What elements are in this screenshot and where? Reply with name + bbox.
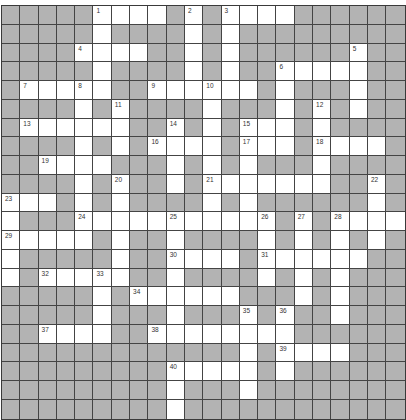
crossword-cell[interactable]: 29: [2, 231, 20, 250]
crossword-cell[interactable]: 40: [167, 362, 185, 381]
crossword-cell[interactable]: 21: [203, 175, 221, 194]
crossword-cell[interactable]: [167, 306, 185, 325]
crossword-cell[interactable]: 28: [331, 212, 349, 231]
crossword-cell[interactable]: 7: [20, 81, 38, 100]
crossword-cell[interactable]: [57, 81, 75, 100]
crossword-cell[interactable]: [331, 137, 349, 156]
crossword-cell[interactable]: [350, 137, 368, 156]
crossword-cell[interactable]: [222, 250, 240, 269]
crossword-cell[interactable]: [258, 6, 276, 25]
crossword-cell[interactable]: 37: [39, 325, 57, 344]
crossword-cell[interactable]: 23: [2, 194, 20, 213]
crossword-cell[interactable]: [240, 344, 258, 363]
crossword-cell[interactable]: [39, 119, 57, 138]
crossword-cell[interactable]: [148, 287, 166, 306]
crossword-cell[interactable]: [295, 250, 313, 269]
crossword-cell[interactable]: [112, 137, 130, 156]
crossword-cell[interactable]: [148, 212, 166, 231]
crossword-cell[interactable]: [2, 212, 20, 231]
crossword-cell[interactable]: [222, 62, 240, 81]
crossword-cell[interactable]: [148, 6, 166, 25]
crossword-cell[interactable]: [75, 100, 93, 119]
crossword-cell[interactable]: [313, 344, 331, 363]
crossword-cell[interactable]: [185, 325, 203, 344]
crossword-cell[interactable]: [167, 81, 185, 100]
crossword-cell[interactable]: 33: [93, 269, 111, 288]
crossword-cell[interactable]: [203, 100, 221, 119]
crossword-cell[interactable]: [93, 25, 111, 44]
crossword-cell[interactable]: [240, 175, 258, 194]
crossword-cell[interactable]: [313, 119, 331, 138]
crossword-cell[interactable]: 32: [39, 269, 57, 288]
crossword-cell[interactable]: 36: [276, 306, 294, 325]
crossword-cell[interactable]: [185, 287, 203, 306]
crossword-cell[interactable]: [350, 212, 368, 231]
crossword-cell[interactable]: [93, 306, 111, 325]
crossword-cell[interactable]: [57, 325, 75, 344]
crossword-cell[interactable]: [57, 119, 75, 138]
crossword-cell[interactable]: [185, 62, 203, 81]
crossword-cell[interactable]: [276, 325, 294, 344]
crossword-cell[interactable]: [240, 381, 258, 400]
crossword-cell[interactable]: [258, 119, 276, 138]
crossword-cell[interactable]: [313, 175, 331, 194]
crossword-cell[interactable]: [295, 287, 313, 306]
crossword-cell[interactable]: [368, 137, 386, 156]
crossword-cell[interactable]: [295, 269, 313, 288]
crossword-cell[interactable]: [331, 344, 349, 363]
crossword-cell[interactable]: [258, 137, 276, 156]
crossword-cell[interactable]: [93, 212, 111, 231]
crossword-cell[interactable]: [240, 81, 258, 100]
crossword-cell[interactable]: [276, 100, 294, 119]
crossword-cell[interactable]: [185, 44, 203, 63]
crossword-cell[interactable]: [75, 194, 93, 213]
crossword-cell[interactable]: [75, 231, 93, 250]
crossword-cell[interactable]: [39, 81, 57, 100]
crossword-cell[interactable]: [295, 344, 313, 363]
crossword-cell[interactable]: [331, 250, 349, 269]
crossword-cell[interactable]: [2, 269, 20, 288]
crossword-cell[interactable]: [331, 306, 349, 325]
crossword-cell[interactable]: [185, 362, 203, 381]
crossword-cell[interactable]: [276, 137, 294, 156]
crossword-cell[interactable]: 26: [258, 212, 276, 231]
crossword-cell[interactable]: [93, 119, 111, 138]
crossword-cell[interactable]: 5: [350, 44, 368, 63]
crossword-cell[interactable]: 39: [276, 344, 294, 363]
crossword-cell[interactable]: [276, 250, 294, 269]
crossword-cell[interactable]: 38: [148, 325, 166, 344]
crossword-cell[interactable]: [93, 287, 111, 306]
crossword-cell[interactable]: [112, 231, 130, 250]
crossword-cell[interactable]: 13: [20, 119, 38, 138]
crossword-cell[interactable]: [240, 156, 258, 175]
crossword-cell[interactable]: [203, 362, 221, 381]
crossword-cell[interactable]: [167, 156, 185, 175]
crossword-cell[interactable]: 12: [313, 100, 331, 119]
crossword-cell[interactable]: [130, 44, 148, 63]
crossword-cell[interactable]: [75, 119, 93, 138]
crossword-cell[interactable]: [240, 6, 258, 25]
crossword-cell[interactable]: [331, 287, 349, 306]
crossword-cell[interactable]: 30: [167, 250, 185, 269]
crossword-cell[interactable]: 22: [368, 175, 386, 194]
crossword-cell[interactable]: 9: [148, 81, 166, 100]
crossword-cell[interactable]: 20: [112, 175, 130, 194]
crossword-cell[interactable]: [57, 269, 75, 288]
crossword-cell[interactable]: 35: [240, 306, 258, 325]
crossword-cell[interactable]: 18: [313, 137, 331, 156]
crossword-cell[interactable]: [313, 250, 331, 269]
crossword-cell[interactable]: [75, 156, 93, 175]
crossword-cell[interactable]: [240, 362, 258, 381]
crossword-cell[interactable]: 14: [167, 119, 185, 138]
crossword-cell[interactable]: [167, 287, 185, 306]
crossword-cell[interactable]: [185, 81, 203, 100]
crossword-cell[interactable]: [167, 175, 185, 194]
crossword-cell[interactable]: [39, 231, 57, 250]
crossword-cell[interactable]: 1: [93, 6, 111, 25]
crossword-cell[interactable]: [276, 6, 294, 25]
crossword-cell[interactable]: [203, 119, 221, 138]
crossword-cell[interactable]: [203, 325, 221, 344]
crossword-cell[interactable]: [350, 100, 368, 119]
crossword-cell[interactable]: [295, 175, 313, 194]
crossword-cell[interactable]: [368, 212, 386, 231]
